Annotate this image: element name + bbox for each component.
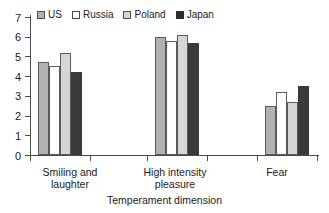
bar-russia-fear [276, 92, 287, 155]
y-axis-tick-label: 1 [15, 130, 21, 141]
x-axis-tick [317, 156, 318, 161]
bar-russia-high-intensity-pleasure [166, 41, 177, 155]
category-label-high-intensity-pleasure: High intensity pleasure [115, 166, 235, 190]
category-label-line1: Smiling and [43, 166, 98, 178]
bar-us-fear [265, 106, 276, 155]
x-axis-tick [257, 156, 258, 161]
category-label-line1: High intensity [143, 166, 206, 178]
category-label-line2: laughter [10, 178, 130, 190]
bar-group-high-intensity-pleasure [155, 17, 199, 155]
category-label-fear: Fear [232, 166, 322, 178]
y-axis-tick-label: 0 [15, 150, 21, 161]
bar-japan-fear [298, 86, 309, 155]
category-label-smiling-and-laughter: Smiling and laughter [10, 166, 130, 190]
y-axis-tick-label: 3 [15, 91, 21, 102]
bar-group-fear [265, 17, 309, 155]
y-axis-tick-label: 7 [15, 12, 21, 23]
bar-russia-smiling-and-laughter [49, 66, 60, 155]
bar-japan-smiling-and-laughter [71, 72, 82, 155]
bar-japan-high-intensity-pleasure [188, 43, 199, 155]
x-axis-tick [30, 156, 31, 161]
y-axis-tick-label: 6 [15, 32, 21, 43]
plot-area [30, 17, 320, 155]
x-axis-tick [207, 156, 208, 161]
x-axis-tick [147, 156, 148, 161]
y-axis-tick-label: 5 [15, 51, 21, 62]
x-axis-line [30, 155, 319, 156]
bar-poland-fear [287, 102, 298, 155]
y-axis-tick-label: 2 [15, 111, 21, 122]
bar-us-high-intensity-pleasure [155, 37, 166, 155]
bar-chart: US Russia Poland Japan 01234567 Smiling … [0, 0, 329, 213]
category-label-line2: pleasure [115, 178, 235, 190]
bar-poland-smiling-and-laughter [60, 53, 71, 156]
bar-group-smiling-and-laughter [38, 17, 82, 155]
y-axis-tick-label: 4 [15, 71, 21, 82]
bar-us-smiling-and-laughter [38, 62, 49, 155]
bar-poland-high-intensity-pleasure [177, 35, 188, 155]
x-axis-title: Temperament dimension [0, 194, 329, 206]
category-label-line1: Fear [266, 166, 288, 178]
x-axis-tick [90, 156, 91, 161]
